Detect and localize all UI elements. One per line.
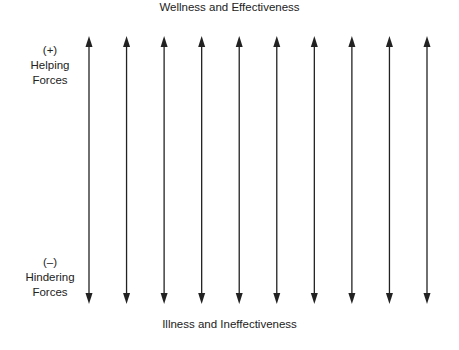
arrow-head-up [348,36,355,47]
double-arrow [348,36,355,304]
double-arrow [273,36,280,304]
arrow-head-down [273,293,280,304]
double-arrow [236,36,243,304]
arrow-head-up [123,36,130,47]
arrow-head-up [198,36,205,47]
force-arrows [0,0,459,350]
arrow-head-up [311,36,318,47]
double-arrow [424,36,431,304]
arrow-head-down [348,293,355,304]
arrow-head-up [273,36,280,47]
double-arrow [161,36,168,304]
double-arrow [86,36,93,304]
arrow-head-up [236,36,243,47]
double-arrow [123,36,130,304]
arrow-head-up [386,36,393,47]
arrow-head-down [161,293,168,304]
arrow-head-up [424,36,431,47]
arrow-head-down [311,293,318,304]
double-arrow [198,36,205,304]
arrow-head-down [386,293,393,304]
arrow-head-up [161,36,168,47]
arrow-head-down [198,293,205,304]
double-arrow [311,36,318,304]
double-arrow [386,36,393,304]
arrow-head-down [424,293,431,304]
arrow-head-down [123,293,130,304]
arrow-head-up [86,36,93,47]
arrow-head-down [236,293,243,304]
bottom-label: Illness and Ineffectiveness [0,318,459,330]
arrow-head-down [86,293,93,304]
